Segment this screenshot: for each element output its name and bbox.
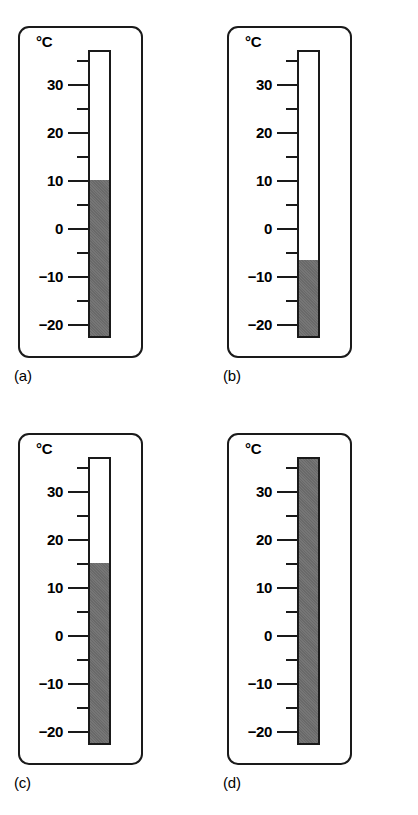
scale-tick-major xyxy=(68,587,90,589)
scale-tick-label: 20 xyxy=(256,531,272,546)
thermometer-panel-a: °C 3020100−10−20 (a) xyxy=(0,0,209,408)
scale-tick-minor xyxy=(77,563,90,565)
mercury-fill xyxy=(90,563,109,743)
scale-tick-label: −20 xyxy=(248,723,272,738)
scale-tick-label: 10 xyxy=(47,579,63,594)
scale-tick-label: 20 xyxy=(47,124,63,139)
scale-tick-minor xyxy=(77,659,90,661)
scale-tick-minor xyxy=(286,707,299,709)
mercury-fill xyxy=(90,180,109,336)
scale-tick-label: 0 xyxy=(264,220,272,235)
scale-tick-major xyxy=(277,132,299,134)
scale-tick-label: −10 xyxy=(248,268,272,283)
scale-tick-label: 30 xyxy=(256,76,272,91)
scale-tick-label: 30 xyxy=(47,76,63,91)
scale-tick-label: 10 xyxy=(256,172,272,187)
mercury-fill xyxy=(299,260,318,336)
thermometer-tube xyxy=(88,50,111,338)
scale-tick-major xyxy=(277,539,299,541)
temperature-scale: 3020100−10−20 xyxy=(20,28,145,360)
scale-tick-minor xyxy=(77,252,90,254)
scale-tick-label: −20 xyxy=(39,723,63,738)
scale-tick-label: 10 xyxy=(47,172,63,187)
scale-tick-minor xyxy=(77,204,90,206)
panel-caption: (b) xyxy=(223,368,241,383)
scale-tick-label: −10 xyxy=(39,675,63,690)
scale-tick-minor xyxy=(77,108,90,110)
panel-caption: (a) xyxy=(14,368,32,383)
scale-tick-major xyxy=(277,228,299,230)
scale-tick-label: 10 xyxy=(256,579,272,594)
scale-tick-major xyxy=(277,587,299,589)
scale-tick-label: 30 xyxy=(47,483,63,498)
scale-tick-major xyxy=(68,180,90,182)
thermometer-case: °C 3020100−10−20 xyxy=(227,433,352,765)
scale-tick-minor xyxy=(286,611,299,613)
panel-caption: (c) xyxy=(14,775,31,790)
temperature-scale: 3020100−10−20 xyxy=(20,435,145,767)
scale-tick-major xyxy=(277,324,299,326)
temperature-scale: 3020100−10−20 xyxy=(229,435,354,767)
scale-tick-major xyxy=(277,635,299,637)
scale-tick-minor xyxy=(286,156,299,158)
scale-tick-minor xyxy=(286,108,299,110)
scale-tick-major xyxy=(68,491,90,493)
scale-tick-minor xyxy=(286,563,299,565)
thermometer-panel-d: °C 3020100−10−20 (d) xyxy=(209,407,418,815)
scale-tick-minor xyxy=(286,204,299,206)
temperature-scale: 3020100−10−20 xyxy=(229,28,354,360)
scale-tick-minor xyxy=(77,467,90,469)
thermometer-case: °C 3020100−10−20 xyxy=(18,26,143,358)
scale-tick-label: −10 xyxy=(39,268,63,283)
scale-tick-major xyxy=(277,84,299,86)
scale-tick-label: 0 xyxy=(264,627,272,642)
scale-tick-minor xyxy=(77,60,90,62)
scale-tick-label: 20 xyxy=(47,531,63,546)
thermometer-panel-b: °C 3020100−10−20 (b) xyxy=(209,0,418,408)
scale-tick-major xyxy=(68,276,90,278)
thermometer-case: °C 3020100−10−20 xyxy=(18,433,143,765)
scale-tick-label: 20 xyxy=(256,124,272,139)
scale-tick-minor xyxy=(286,252,299,254)
scale-tick-major xyxy=(68,635,90,637)
scale-tick-minor xyxy=(286,515,299,517)
thermometer-figure: °C 3020100−10−20 (a) °C 3020100−10−20 (b… xyxy=(0,0,418,815)
scale-tick-major xyxy=(68,731,90,733)
scale-tick-label: −10 xyxy=(248,675,272,690)
scale-tick-minor xyxy=(286,659,299,661)
scale-tick-minor xyxy=(286,300,299,302)
thermometer-tube xyxy=(297,457,320,745)
panel-caption: (d) xyxy=(223,775,241,790)
scale-tick-minor xyxy=(286,467,299,469)
scale-tick-label: 0 xyxy=(55,220,63,235)
scale-tick-label: 0 xyxy=(55,627,63,642)
scale-tick-major xyxy=(68,84,90,86)
scale-tick-minor xyxy=(77,300,90,302)
scale-tick-label: −20 xyxy=(248,316,272,331)
scale-tick-minor xyxy=(286,60,299,62)
scale-tick-major xyxy=(68,132,90,134)
mercury-fill xyxy=(299,459,318,743)
scale-tick-minor xyxy=(77,156,90,158)
scale-tick-major xyxy=(68,683,90,685)
scale-tick-minor xyxy=(77,611,90,613)
scale-tick-minor xyxy=(77,515,90,517)
scale-tick-major xyxy=(68,324,90,326)
thermometer-tube xyxy=(297,50,320,338)
scale-tick-major xyxy=(68,539,90,541)
scale-tick-major xyxy=(277,731,299,733)
thermometer-case: °C 3020100−10−20 xyxy=(227,26,352,358)
scale-tick-label: −20 xyxy=(39,316,63,331)
scale-tick-label: 30 xyxy=(256,483,272,498)
scale-tick-major xyxy=(277,276,299,278)
scale-tick-major xyxy=(277,491,299,493)
scale-tick-major xyxy=(277,683,299,685)
thermometer-tube xyxy=(88,457,111,745)
scale-tick-minor xyxy=(77,707,90,709)
thermometer-panel-c: °C 3020100−10−20 (c) xyxy=(0,407,209,815)
scale-tick-major xyxy=(277,180,299,182)
scale-tick-major xyxy=(68,228,90,230)
